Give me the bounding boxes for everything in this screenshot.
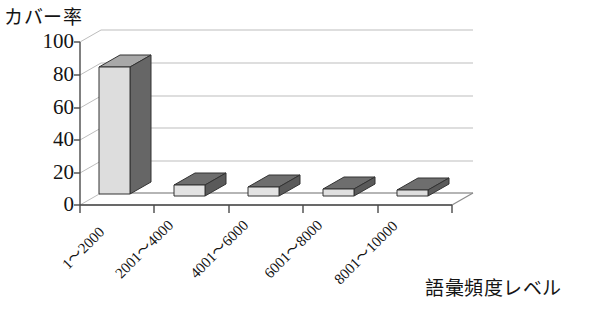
x-tick-label-2001-4000: 2001〜4000	[112, 217, 176, 281]
x-tick-label-1-2000: 1〜2000	[59, 224, 107, 272]
chart-container: 100 80 60 40 20 0 カバー率 1〜2000 2001〜4000 …	[0, 0, 592, 325]
x-tick-label-6001-8000: 6001〜8000	[261, 217, 325, 281]
x-tick-label-4001-6000: 4001〜6000	[187, 217, 251, 281]
x-axis-title: 語彙頻度レベル	[425, 277, 562, 301]
x-tick-label-8001-10000: 8001〜10000	[331, 218, 401, 288]
